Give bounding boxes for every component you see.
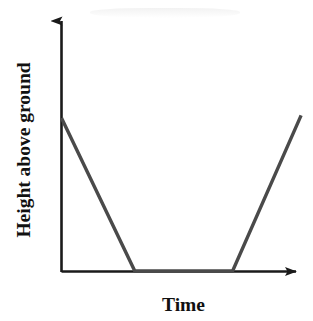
height-vs-time-curve — [62, 115, 302, 271]
chart-figure: Height above ground Time — [0, 0, 313, 321]
plot-area — [0, 0, 313, 321]
x-axis-label: Time — [0, 294, 313, 316]
y-axis-label: Height above ground — [13, 62, 35, 237]
